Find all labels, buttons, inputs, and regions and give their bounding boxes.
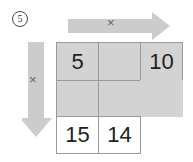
problem-number: 5 [12, 11, 28, 27]
grid-cell-r1c3: 10 [140, 42, 183, 81]
grid-cell-r3c1: 15 [56, 116, 99, 154]
grid-cell-r3c2: 14 [98, 116, 141, 154]
grid-cell-r2c3 [140, 80, 183, 117]
grid-cell-r2c2 [98, 80, 141, 117]
vertical-arrow-icon [22, 42, 52, 139]
vertical-multiply-label: × [29, 72, 37, 87]
grid-cell-r1c1: 5 [56, 42, 99, 81]
horizontal-multiply-label: × [107, 15, 115, 30]
grid-cell-r1c2 [98, 42, 141, 81]
grid-cell-r2c1 [56, 80, 99, 117]
horizontal-arrow-icon [68, 12, 172, 42]
